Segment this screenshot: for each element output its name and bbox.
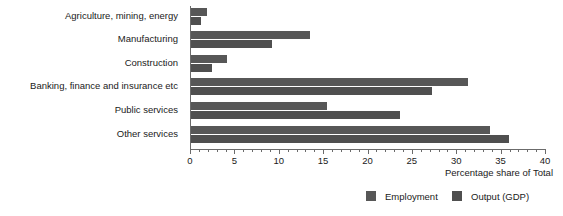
x-tick-minor [359, 149, 360, 152]
bar-group [190, 78, 545, 96]
bar [190, 55, 227, 63]
bar [190, 87, 432, 95]
bar [190, 40, 272, 48]
bar-group [190, 31, 545, 49]
x-tick-major [501, 149, 502, 154]
x-tick-minor [332, 149, 333, 152]
x-tick-minor [510, 149, 511, 152]
legend-label-employment: Employment [385, 191, 438, 202]
category-label: Banking, finance and insurance etc [30, 81, 178, 91]
x-tick-major [368, 149, 369, 154]
bar [190, 135, 509, 143]
bar-group [190, 55, 545, 73]
x-tick-label: 25 [407, 155, 418, 166]
bar-group [190, 126, 545, 144]
x-tick-minor [270, 149, 271, 152]
x-tick-minor [385, 149, 386, 152]
legend-entry-employment: Employment [366, 190, 438, 202]
x-tick-minor [536, 149, 537, 152]
bar-chart: Agriculture, mining, energyManufacturing… [0, 0, 563, 216]
bar [190, 8, 207, 16]
x-tick-label: 5 [232, 155, 237, 166]
x-tick-minor [208, 149, 209, 152]
bar [190, 102, 327, 110]
x-tick-minor [252, 149, 253, 152]
chart-legend: Employment Output (GDP) [0, 190, 563, 204]
x-tick-major [234, 149, 235, 154]
x-tick-minor [261, 149, 262, 152]
x-tick-major [279, 149, 280, 154]
x-tick-minor [483, 149, 484, 152]
plot-area [190, 6, 545, 148]
category-label-row: Public services [0, 105, 184, 122]
category-label: Construction [125, 58, 178, 68]
x-tick-major [323, 149, 324, 154]
x-tick-minor [305, 149, 306, 152]
x-tick-label: 15 [318, 155, 329, 166]
x-tick-minor [314, 149, 315, 152]
x-tick-minor [465, 149, 466, 152]
category-label-row: Agriculture, mining, energy [0, 11, 184, 28]
x-tick-label: 40 [540, 155, 551, 166]
x-tick-minor [527, 149, 528, 152]
bar-group [190, 8, 545, 26]
legend-swatch-employment [366, 191, 376, 201]
category-label: Other services [117, 129, 178, 139]
x-tick-minor [447, 149, 448, 152]
x-tick-minor [439, 149, 440, 152]
x-axis-title: Percentage share of Total [445, 167, 553, 178]
legend-swatch-output [452, 191, 462, 201]
x-tick-minor [421, 149, 422, 152]
bar [190, 126, 490, 134]
x-tick-major [456, 149, 457, 154]
x-tick-label: 35 [495, 155, 506, 166]
x-tick-minor [288, 149, 289, 152]
bar-group [190, 102, 545, 120]
y-axis-line [190, 6, 191, 149]
x-tick-minor [243, 149, 244, 152]
x-tick-minor [518, 149, 519, 152]
bar [190, 64, 212, 72]
category-label-row: Banking, finance and insurance etc [0, 81, 184, 98]
category-label-row: Manufacturing [0, 34, 184, 51]
bar [190, 111, 400, 119]
x-tick-label: 0 [187, 155, 192, 166]
x-tick-label: 20 [362, 155, 373, 166]
x-tick-minor [297, 149, 298, 152]
x-tick-label: 30 [451, 155, 462, 166]
x-tick-minor [492, 149, 493, 152]
x-tick-minor [226, 149, 227, 152]
bar [190, 78, 468, 86]
x-tick-major [545, 149, 546, 154]
x-tick-minor [341, 149, 342, 152]
category-label-row: Construction [0, 58, 184, 75]
x-tick-minor [394, 149, 395, 152]
x-tick-minor [350, 149, 351, 152]
category-label: Manufacturing [118, 34, 178, 44]
bar [190, 31, 310, 39]
x-tick-minor [430, 149, 431, 152]
category-label: Agriculture, mining, energy [65, 11, 178, 21]
category-label: Public services [115, 105, 178, 115]
x-tick-label: 10 [273, 155, 284, 166]
legend-label-output: Output (GDP) [471, 191, 529, 202]
category-label-row: Other services [0, 129, 184, 146]
x-tick-minor [199, 149, 200, 152]
x-tick-minor [403, 149, 404, 152]
x-tick-minor [217, 149, 218, 152]
x-tick-minor [376, 149, 377, 152]
legend-entry-output: Output (GDP) [452, 190, 529, 202]
x-tick-major [190, 149, 191, 154]
x-tick-major [412, 149, 413, 154]
x-tick-minor [474, 149, 475, 152]
bar [190, 17, 201, 25]
